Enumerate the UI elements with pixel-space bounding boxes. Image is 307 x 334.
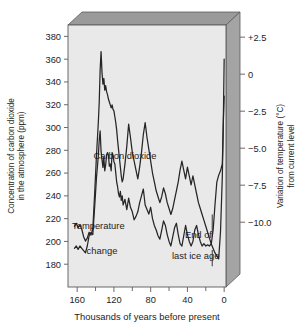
y2-tick-label-2: −2.5 [248, 107, 266, 117]
y-tick-label-220: 220 [45, 214, 61, 224]
y-tick-label-380: 380 [45, 32, 61, 42]
figure-container: 180200220240260280300320340360380+2.50−2… [0, 0, 307, 334]
annotation-temperature-change: change [87, 245, 118, 256]
y-tick-label-320: 320 [45, 100, 61, 110]
y-tick-label-280: 280 [45, 146, 61, 156]
annotation-end-of: End of [185, 229, 212, 240]
x-tick-label-120: 120 [106, 295, 122, 305]
y2-axis-title-line2: from current level [287, 124, 296, 187]
y2-axis-title: Variation of temperature (°C) [276, 104, 285, 208]
y-tick-label-260: 260 [45, 168, 61, 178]
x-tick-label-0: 0 [222, 295, 227, 305]
y-axis-title: Concentration of carbon dioxide [7, 98, 16, 214]
y2-tick-label-0: +2.5 [248, 33, 266, 43]
x-tick-label-40: 40 [182, 295, 192, 305]
box-right-face [226, 12, 240, 287]
box-top-face [68, 12, 240, 25]
y-tick-label-200: 200 [45, 237, 61, 247]
x-tick-label-160: 160 [69, 295, 85, 305]
y2-tick-label-3: −5.0 [248, 144, 266, 154]
y2-tick-label-4: −7.5 [248, 181, 266, 191]
y-tick-label-240: 240 [45, 191, 61, 201]
y2-tick-label-5: −10.0 [248, 218, 272, 228]
y-axis-title-line2: in the atmosphere (ppm) [17, 111, 26, 200]
y-tick-label-360: 360 [45, 55, 61, 65]
annotation-temperature: Temperature [72, 220, 125, 231]
y-tick-label-300: 300 [45, 123, 61, 133]
x-tick-label-80: 80 [146, 295, 156, 305]
y-tick-label-340: 340 [45, 77, 61, 87]
x-axis-title: Thousands of years before present [74, 311, 220, 322]
y-tick-label-180: 180 [45, 260, 61, 270]
annotation-carbon-dioxide: Carbon dioxide [93, 150, 156, 161]
y2-tick-label-1: 0 [248, 70, 253, 80]
chart-svg: 180200220240260280300320340360380+2.50−2… [0, 0, 307, 334]
